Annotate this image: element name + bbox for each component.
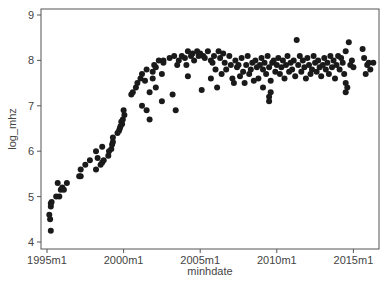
data-point <box>349 57 355 63</box>
data-point <box>219 71 225 77</box>
data-point <box>159 98 165 104</box>
data-point <box>343 48 349 54</box>
data-point <box>144 67 150 73</box>
y-axis: 456789 <box>28 9 41 248</box>
data-point <box>242 80 248 86</box>
data-point <box>318 73 324 79</box>
data-point <box>55 180 61 186</box>
data-point <box>367 67 373 73</box>
data-point <box>171 53 177 59</box>
y-tick-label: 5 <box>28 191 34 203</box>
data-point <box>147 89 153 95</box>
data-point <box>49 199 55 205</box>
data-point <box>101 157 107 163</box>
y-tick-label: 6 <box>28 145 34 157</box>
data-point <box>350 64 356 70</box>
data-point <box>337 67 343 73</box>
data-point <box>291 57 297 63</box>
data-point <box>326 71 332 77</box>
data-point <box>248 67 254 73</box>
data-point <box>239 55 245 61</box>
data-point <box>139 71 145 77</box>
data-point <box>243 62 249 68</box>
data-point <box>202 55 208 61</box>
data-point <box>213 67 219 73</box>
data-point <box>240 69 246 75</box>
data-point <box>142 78 148 84</box>
scatter-chart: 456789 1995m12000m12005m12010m12015m1 mi… <box>0 0 390 293</box>
data-point <box>211 53 217 59</box>
data-point <box>282 76 288 82</box>
data-point <box>183 62 189 68</box>
data-point <box>48 228 54 234</box>
data-point <box>121 112 127 118</box>
data-point <box>170 92 176 98</box>
data-point <box>199 87 205 93</box>
data-point <box>315 57 321 63</box>
data-point <box>210 60 216 66</box>
data-point <box>208 76 214 82</box>
data-point <box>268 78 274 84</box>
data-point <box>110 135 116 141</box>
data-point <box>182 55 188 61</box>
y-tick-label: 7 <box>28 100 34 112</box>
data-point <box>289 67 295 73</box>
data-point <box>285 53 291 59</box>
data-point <box>87 157 93 163</box>
data-point <box>346 39 352 45</box>
data-point <box>340 60 346 66</box>
x-tick-label: 1995m1 <box>27 254 67 266</box>
data-point <box>61 187 67 193</box>
data-point <box>332 76 338 82</box>
data-point <box>265 53 271 59</box>
data-point <box>303 76 309 82</box>
data-point <box>214 85 220 91</box>
data-point <box>82 162 88 168</box>
data-point <box>220 51 226 57</box>
x-axis: 1995m12000m12005m12010m12015m1 <box>27 249 373 266</box>
x-tick-label: 2010m1 <box>257 254 297 266</box>
data-point <box>363 71 369 77</box>
data-point <box>245 53 251 59</box>
data-point <box>263 71 269 77</box>
data-point <box>294 37 300 43</box>
plot-area <box>41 9 379 249</box>
data-point <box>260 85 266 91</box>
data-point <box>78 173 84 179</box>
data-point <box>93 166 99 172</box>
y-tick-label: 9 <box>28 9 34 21</box>
data-point <box>361 55 367 61</box>
data-point <box>226 53 232 59</box>
data-point <box>370 60 376 66</box>
y-tick-label: 4 <box>28 236 34 248</box>
data-point <box>191 57 197 63</box>
data-point <box>344 85 350 91</box>
data-point <box>228 62 234 68</box>
data-point <box>147 116 153 122</box>
data-point <box>153 85 159 91</box>
y-tick-label: 8 <box>28 54 34 66</box>
x-tick-label: 2015m1 <box>334 254 374 266</box>
data-point <box>236 62 242 68</box>
data-point <box>56 194 62 200</box>
data-point <box>160 60 166 66</box>
data-point <box>185 73 191 79</box>
data-point <box>46 212 52 218</box>
data-point <box>295 62 301 68</box>
data-point <box>277 71 283 77</box>
data-point <box>173 107 179 113</box>
data-point <box>292 73 298 79</box>
data-point <box>144 107 150 113</box>
data-point <box>222 60 228 66</box>
data-point <box>223 67 229 73</box>
data-point <box>311 53 317 59</box>
x-tick-label: 2000m1 <box>104 254 144 266</box>
data-point <box>304 55 310 61</box>
data-point <box>324 60 330 66</box>
data-point <box>153 64 159 70</box>
data-point <box>205 48 211 54</box>
data-point <box>139 103 145 109</box>
data-point <box>95 155 101 161</box>
x-axis-title: minhdate <box>187 265 232 277</box>
data-point <box>64 180 70 186</box>
